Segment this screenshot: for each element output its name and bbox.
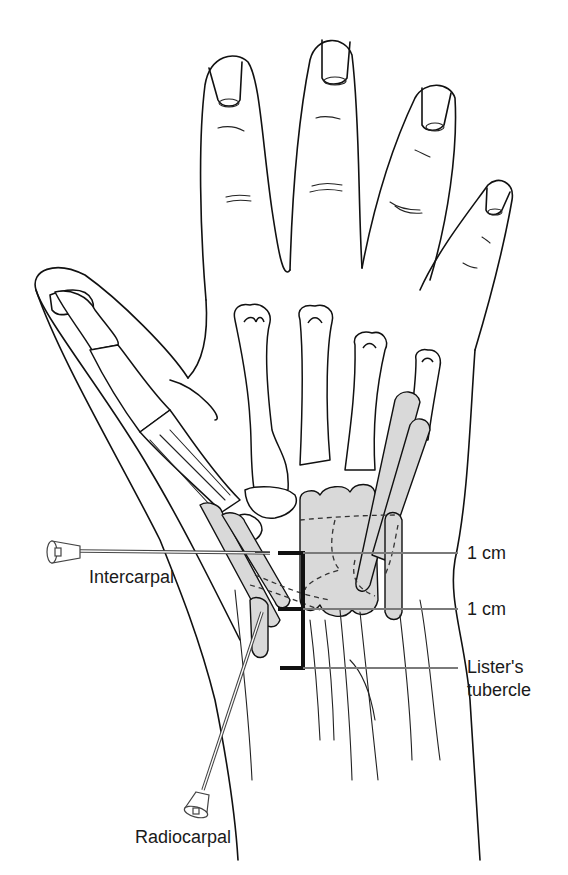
intercarpal-label: Intercarpal (89, 567, 174, 588)
distance-upper-label: 1 cm (467, 543, 506, 564)
listers-tubercle-label-line1: Lister's (467, 657, 523, 678)
distance-lower-label: 1 cm (467, 599, 506, 620)
radiocarpal-needle-icon (183, 612, 262, 820)
thumb-bones (55, 291, 240, 512)
hand-wrist-anatomy-diagram (0, 0, 568, 875)
radiocarpal-label: Radiocarpal (135, 827, 231, 848)
measurement-bracket (278, 553, 303, 668)
listers-tubercle-label-line2: tubercle (467, 680, 531, 701)
